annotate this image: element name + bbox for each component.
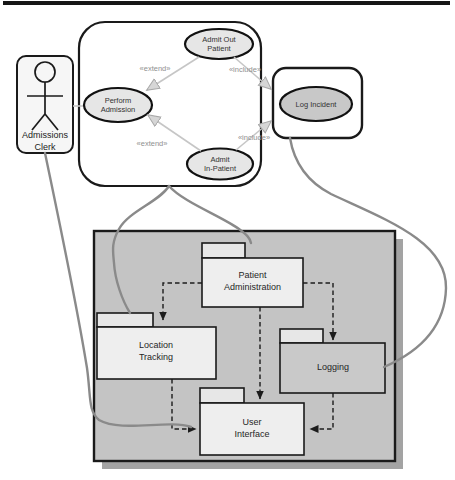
package-logging-body bbox=[280, 343, 385, 393]
package-logging-tab bbox=[280, 329, 323, 343]
package-location-tracking-tab bbox=[97, 313, 153, 327]
package-user-interface-body bbox=[200, 403, 304, 455]
usecase-admit-in-patient bbox=[187, 149, 253, 180]
uml-diagram-page: Admissions Clerk Perform Admission Admit… bbox=[0, 0, 455, 480]
page-top-rule bbox=[3, 1, 450, 5]
package-patient-administration-tab bbox=[202, 243, 245, 258]
package-user-interface-tab bbox=[200, 388, 244, 403]
usecase-admit-out-patient bbox=[185, 29, 253, 59]
usecase-perform-admission bbox=[84, 88, 152, 122]
package-patient-administration-body bbox=[202, 258, 303, 307]
usecase-log-incident bbox=[280, 87, 352, 121]
diagram-drawing bbox=[0, 0, 455, 480]
package-location-tracking-body bbox=[97, 327, 216, 379]
